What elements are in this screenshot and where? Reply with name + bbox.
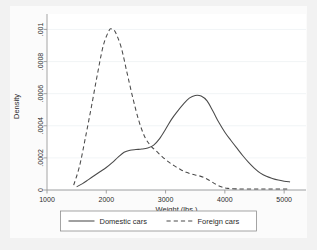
y-tick-label-3: .0006 — [37, 85, 44, 103]
density-chart: 0.0002.0004.0006.0008.001100020003000400… — [0, 0, 317, 250]
x-tick-label-0: 1000 — [39, 196, 55, 203]
x-tick-label-3: 4000 — [217, 196, 233, 203]
legend-label-1[interactable]: Foreign cars — [198, 217, 240, 226]
figure-canvas: 0.0002.0004.0006.0008.001100020003000400… — [0, 0, 317, 250]
x-tick-label-2: 3000 — [158, 196, 174, 203]
plot-background — [47, 14, 306, 190]
y-tick-label-4: .0008 — [37, 53, 44, 71]
x-tick-label-4: 5000 — [276, 196, 292, 203]
y-tick-label-0: 0 — [37, 188, 44, 192]
y-tick-label-1: .0002 — [37, 149, 44, 167]
y-axis-title: Density — [12, 94, 21, 119]
y-tick-label-2: .0004 — [37, 117, 44, 135]
y-tick-label-5: .001 — [37, 23, 44, 37]
x-tick-label-1: 2000 — [98, 196, 114, 203]
legend-label-0[interactable]: Domestic cars — [100, 217, 148, 226]
